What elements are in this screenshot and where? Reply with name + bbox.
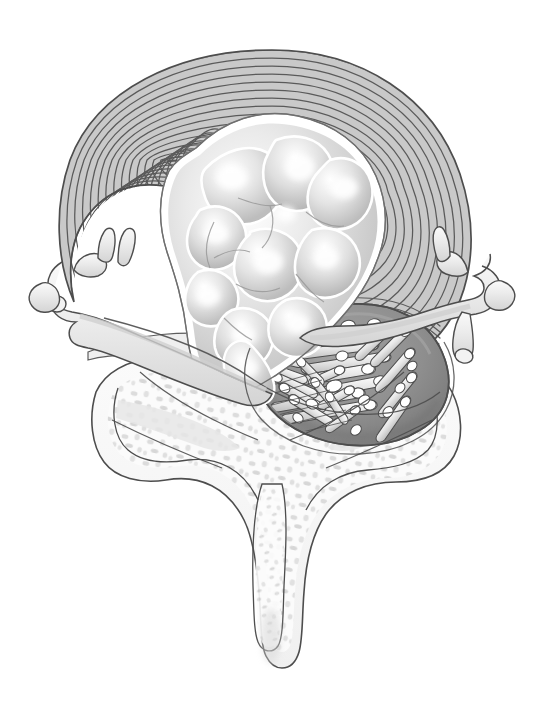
- transverse-process-left: [29, 283, 59, 313]
- spinous-tip-shadow: [261, 608, 281, 664]
- medical-illustration-figure: Axial cross-section of lumbar vertebra w…: [0, 0, 544, 701]
- transverse-process-right: [485, 281, 515, 311]
- disc-herniation-illustration: [0, 0, 544, 701]
- nucleus-extrusion-highlight: [238, 359, 258, 377]
